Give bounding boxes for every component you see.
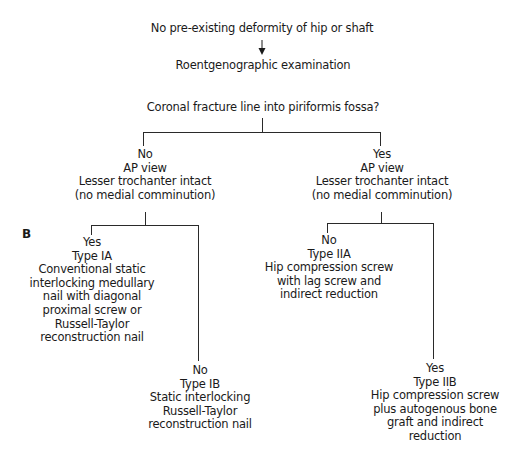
connector-line: [433, 223, 434, 359]
leaf-treatment: reconstruction nail: [148, 418, 252, 432]
leaf-treatment: reduction: [371, 430, 499, 444]
leaf-type: Type IIB: [371, 376, 499, 390]
branch-view: AP view: [312, 162, 453, 176]
leaf-treatment: plus autogenous bone: [371, 403, 499, 417]
connector-line: [198, 225, 199, 361]
leaf-type: Type IA: [30, 250, 155, 264]
branch-note: (no medial comminution): [312, 189, 453, 203]
leaf-answer: Yes: [371, 362, 499, 376]
leaf-answer: No: [265, 234, 393, 248]
leaf-treatment: Russell-Taylor: [148, 405, 252, 419]
connector-line: [380, 132, 381, 146]
connector-line: [143, 132, 381, 133]
connector-line: [327, 223, 434, 224]
branch-criterion: Lesser trochanter intact: [312, 175, 453, 189]
leaf-treatment: Static interlocking: [148, 391, 252, 405]
leaf-treatment: interlocking medullary: [30, 277, 155, 291]
connector-line: [91, 225, 199, 226]
start-node: No pre-existing deformity of hip or shaf…: [151, 22, 374, 36]
leaf-answer: No: [148, 364, 252, 378]
branch-node-yes: Yes AP view Lesser trochanter intact (no…: [312, 148, 453, 202]
roentgenographic-node: Roentgenographic examination: [176, 59, 351, 73]
leaf-treatment: Hip compression screw: [265, 261, 393, 275]
leaf-treatment: Hip compression screw: [371, 389, 499, 403]
branch-answer: No: [75, 148, 216, 162]
connector-line: [91, 225, 92, 235]
leaf-treatment: proximal screw or: [30, 304, 155, 318]
leaf-treatment: reconstruction nail: [30, 331, 155, 345]
leaf-node-type-ia: Yes Type IA Conventional static interloc…: [30, 236, 155, 345]
down-arrow-icon: [257, 40, 267, 56]
leaf-type: Type IIA: [265, 248, 393, 262]
leaf-treatment: nail with diagonal: [30, 290, 155, 304]
leaf-answer: Yes: [30, 236, 155, 250]
connector-line: [145, 212, 146, 225]
leaf-type: Type IB: [148, 378, 252, 392]
branch-node-no: No AP view Lesser trochanter intact (no …: [75, 148, 216, 202]
leaf-node-type-iib: Yes Type IIB Hip compression screw plus …: [371, 362, 499, 444]
leaf-treatment: Russell-Taylor: [30, 318, 155, 332]
leaf-treatment: indirect reduction: [265, 288, 393, 302]
leaf-treatment: with lag screw and: [265, 275, 393, 289]
leaf-treatment: graft and indirect: [371, 416, 499, 430]
branch-criterion: Lesser trochanter intact: [75, 175, 216, 189]
leaf-treatment: Conventional static: [30, 263, 155, 277]
leaf-node-type-ib: No Type IB Static interlocking Russell-T…: [148, 364, 252, 432]
connector-line: [381, 212, 382, 223]
leaf-node-type-iia: No Type IIA Hip compression screw with l…: [265, 234, 393, 302]
branch-answer: Yes: [312, 148, 453, 162]
connector-line: [262, 118, 263, 133]
question-node: Coronal fracture line into piriformis fo…: [147, 101, 380, 115]
connector-line: [143, 132, 144, 146]
branch-note: (no medial comminution): [75, 189, 216, 203]
branch-view: AP view: [75, 162, 216, 176]
connector-line: [327, 223, 328, 233]
